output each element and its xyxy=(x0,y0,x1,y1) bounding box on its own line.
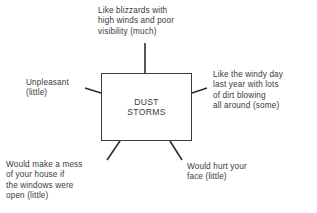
attribute-label-left: Unpleasant (little) xyxy=(26,78,69,99)
label-line: face (little) xyxy=(187,172,247,182)
label-line: visibility (much) xyxy=(98,27,174,37)
label-line: the windows were xyxy=(6,181,83,191)
connector-right xyxy=(192,88,207,93)
label-line: of your house if xyxy=(6,170,83,180)
label-line: of dirt blowing xyxy=(213,91,283,101)
label-line: (little) xyxy=(26,88,69,98)
label-line: open (little) xyxy=(6,191,83,201)
connector-bottom-left xyxy=(107,141,120,160)
label-line: Would make a mess xyxy=(6,160,83,170)
label-line: last year with lots xyxy=(213,80,283,90)
label-line: Would hurt your xyxy=(187,162,247,172)
label-line: all around (some) xyxy=(213,101,283,111)
attribute-label-right: Like the windy day last year with lots o… xyxy=(213,70,283,111)
attribute-label-top: Like blizzards with high winds and poor … xyxy=(98,6,174,37)
connector-bottom-right xyxy=(170,141,182,160)
label-line: Like the windy day xyxy=(213,70,283,80)
dust-storms-concept-map: DUST STORMS Like blizzards with high win… xyxy=(0,0,317,213)
label-line: Unpleasant xyxy=(26,78,69,88)
label-line: Like blizzards with xyxy=(98,6,174,16)
center-line-2: STORMS xyxy=(127,107,165,118)
connector-left xyxy=(85,88,101,93)
label-line: high winds and poor xyxy=(98,16,174,26)
center-concept-box: DUST STORMS xyxy=(101,73,192,141)
attribute-label-bottom-left: Would make a mess of your house if the w… xyxy=(6,160,83,201)
attribute-label-bottom-right: Would hurt your face (little) xyxy=(187,162,247,183)
center-line-1: DUST xyxy=(134,97,159,108)
